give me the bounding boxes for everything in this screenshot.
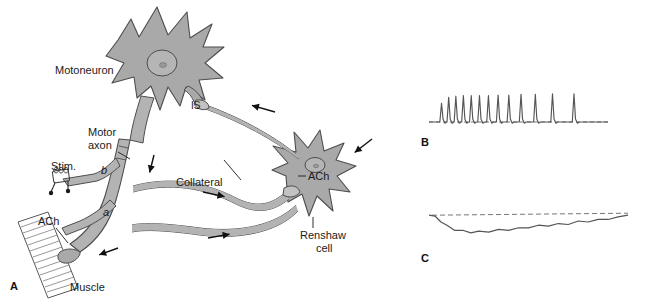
figure-root: Motoneuron Motor axon IS Collateral Stim… [0,0,645,302]
panel-c-ipsp-path [429,215,628,233]
panel-letter-c: C [421,252,429,264]
panel-c-baseline [432,213,628,215]
panel-c-trace [0,0,645,302]
